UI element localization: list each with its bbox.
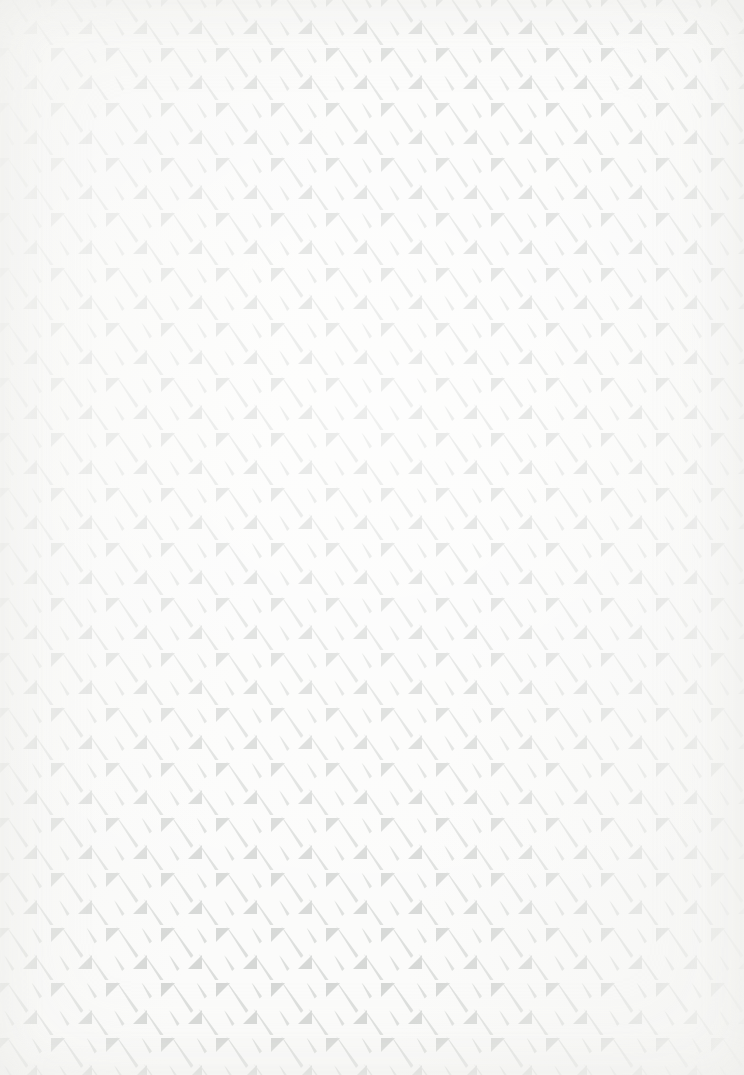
pattern-svg bbox=[0, 0, 744, 1075]
tiled-pattern-layer bbox=[0, 0, 744, 1075]
pattern-canvas bbox=[0, 0, 744, 1075]
pattern-fill-rect bbox=[0, 0, 744, 1075]
